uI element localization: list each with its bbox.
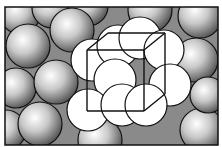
unit-cell-sphere <box>144 30 184 70</box>
gray-sphere <box>18 102 62 146</box>
gray-sphere <box>180 108 222 147</box>
diagram-canvas <box>0 0 222 147</box>
gray-sphere <box>190 77 222 113</box>
unit-cell-sphere <box>125 84 167 126</box>
sphere-packing-diagram <box>0 0 222 147</box>
gray-sphere <box>6 24 50 68</box>
